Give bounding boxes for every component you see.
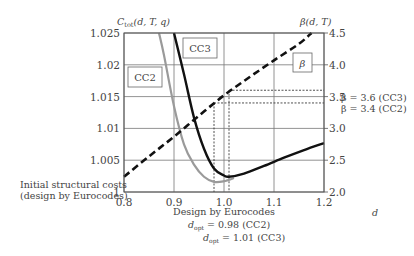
- series-beta: [124, 33, 312, 177]
- design-by-eurocodes-label: Design by Eurocodes: [173, 206, 275, 217]
- y-left-tick-label: 1.015: [90, 91, 120, 103]
- y-right-tick-label: 2.0: [329, 186, 346, 198]
- beta-cc3-annotation: β = 3.6 (CC3): [341, 92, 407, 103]
- label-beta: β: [299, 58, 306, 69]
- dopt-cc2-annotation: dopt = 0.98 (CC2): [188, 219, 270, 232]
- y-left-axis-title: Ctot(d, T, q): [117, 16, 170, 29]
- label-box-beta: β: [293, 53, 312, 72]
- y-left-tick-label: 1.02: [97, 59, 120, 71]
- y-right-tick-label: 4.0: [329, 59, 346, 71]
- y-left-tick-label: 1.01: [97, 122, 120, 134]
- y-right-tick-label: 2.5: [329, 154, 346, 166]
- dopt-cc3-annotation: dopt = 1.01 (CC3): [203, 232, 285, 245]
- label-box-cc2: CC2: [128, 67, 162, 87]
- chart: 0.80.91.01.11.211.0051.011.0151.021.0252…: [0, 0, 414, 256]
- label-cc3: CC3: [189, 43, 211, 54]
- y-right-tick-label: 3.0: [329, 122, 346, 134]
- beta-cc2-annotation: β = 3.4 (CC2): [341, 103, 407, 114]
- initial-costs-label-line2: (design by Eurocodes): [20, 190, 128, 201]
- y-left-tick-label: 1.025: [90, 27, 120, 39]
- y-right-tick-label: 4.5: [329, 27, 346, 39]
- label-cc2: CC2: [134, 72, 156, 83]
- x-axis-title: d: [372, 207, 378, 218]
- label-box-cc3: CC3: [183, 38, 217, 58]
- y-right-axis-title: β(d, T): [299, 16, 332, 27]
- y-left-tick-label: 1.005: [90, 154, 120, 166]
- initial-costs-label-line1: Initial structural costs: [20, 179, 127, 190]
